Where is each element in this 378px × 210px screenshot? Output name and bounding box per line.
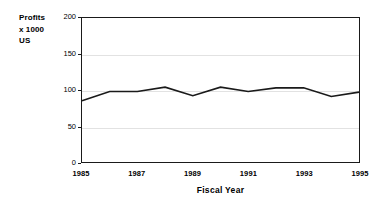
- x-tick-label-1989: 1989: [178, 169, 208, 178]
- x-axis-title: Fiscal Year: [81, 185, 360, 195]
- y-tick-label-0: 0: [54, 159, 76, 167]
- y-tick-label-150: 150: [54, 50, 76, 58]
- data-series-profits: [82, 18, 359, 162]
- x-tick-label-1991: 1991: [233, 169, 263, 178]
- y-tick-mark-0: [78, 163, 81, 164]
- x-tick-label-1995: 1995: [345, 169, 375, 178]
- y-axis-title-line-2: x 1000: [19, 24, 77, 36]
- x-tick-label-1987: 1987: [122, 169, 152, 178]
- x-tick-label-1993: 1993: [289, 169, 319, 178]
- line-chart-figure: Profits x 1000 US 050100150200 198519871…: [0, 0, 378, 210]
- plot-area: [81, 17, 360, 163]
- y-tick-label-100: 100: [54, 86, 76, 94]
- x-tick-label-1985: 1985: [66, 169, 96, 178]
- y-axis-title-line-1: Profits: [19, 12, 77, 24]
- y-tick-label-50: 50: [54, 123, 76, 131]
- y-axis-title: Profits x 1000 US: [19, 12, 77, 47]
- y-axis-title-line-3: US: [19, 35, 77, 47]
